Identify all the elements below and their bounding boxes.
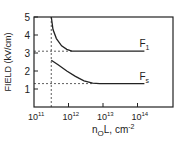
series-labels: F1Fs bbox=[139, 38, 149, 83]
series-layer bbox=[51, 17, 144, 84]
y-axis-label: FIELD (kV/cm) bbox=[3, 32, 13, 91]
x-axis-label: nOL, cm-2 bbox=[92, 123, 135, 138]
x-tick-label: 1012 bbox=[63, 111, 80, 122]
x-label-rest: L, cm bbox=[104, 124, 128, 135]
y-tick-label: 1 bbox=[24, 84, 30, 95]
series-line-f1 bbox=[51, 17, 144, 51]
x-tick-label: 1011 bbox=[28, 111, 45, 122]
series-label-f1: F1 bbox=[139, 38, 149, 51]
chart: 1011101210131014 12345 F1Fs FIELD (kV/cm… bbox=[0, 0, 182, 149]
y-tick-label: 5 bbox=[24, 12, 30, 23]
x-axis-ticks: 1011101210131014 bbox=[28, 103, 149, 122]
y-tick-label: 3 bbox=[24, 48, 30, 59]
x-label-sup: -2 bbox=[128, 123, 134, 130]
y-tick-label: 4 bbox=[24, 30, 30, 41]
series-label-fs: Fs bbox=[139, 71, 149, 84]
x-tick-label: 1014 bbox=[132, 111, 149, 122]
x-tick-label: 1013 bbox=[97, 111, 114, 122]
reference-lines bbox=[34, 17, 93, 107]
series-line-fs bbox=[51, 60, 144, 83]
y-tick-label: 2 bbox=[24, 66, 30, 77]
y-axis-ticks: 12345 bbox=[24, 12, 38, 95]
